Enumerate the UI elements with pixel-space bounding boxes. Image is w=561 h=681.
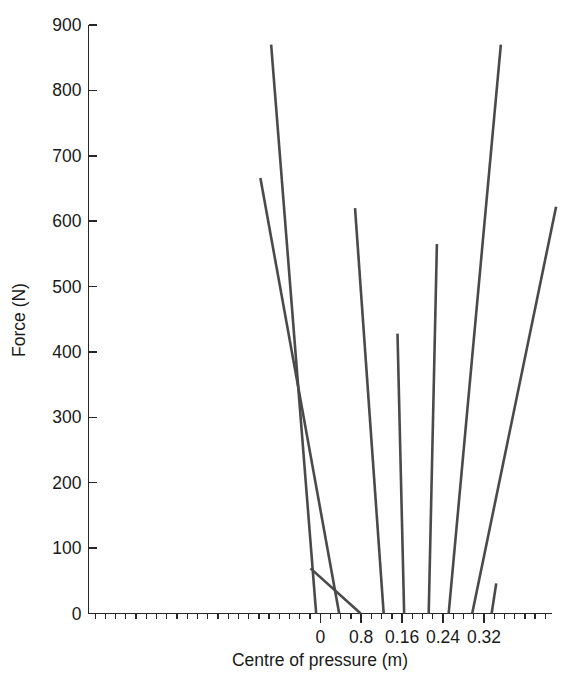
data-line-trace-4 [355, 208, 384, 613]
y-tick-label: 100 [52, 538, 81, 558]
data-line-trace-8 [472, 207, 556, 614]
data-line-trace-5 [398, 334, 405, 614]
y-tick-label: 800 [52, 80, 81, 100]
y-tick-label: 900 [52, 15, 81, 35]
y-tick-label: 200 [52, 473, 81, 493]
data-line-trace-6 [429, 244, 437, 613]
x-axis-ticks [95, 614, 545, 623]
x-tick-label: 0.24 [426, 627, 460, 647]
data-line-trace-1 [271, 45, 316, 614]
force-centre-of-pressure-chart: 0100200300400500600700800900 00.80.160.2… [0, 0, 561, 681]
chart-figure: 0100200300400500600700800900 00.80.160.2… [0, 0, 561, 681]
x-tick-label: 0.32 [467, 627, 501, 647]
data-line-trace-3 [311, 568, 361, 613]
y-tick-label: 700 [52, 146, 81, 166]
data-line-trace-9 [492, 583, 497, 613]
x-tick-label: 0.16 [385, 627, 419, 647]
data-series-group [260, 45, 556, 614]
y-tick-label: 300 [52, 407, 81, 427]
y-axis-ticks [89, 25, 97, 614]
x-tick-label: 0 [315, 627, 325, 647]
y-axis-tick-labels: 0100200300400500600700800900 [52, 15, 81, 624]
y-tick-label: 0 [72, 604, 82, 624]
y-tick-label: 400 [52, 342, 81, 362]
y-tick-label: 500 [52, 277, 81, 297]
y-tick-label: 600 [52, 211, 81, 231]
x-axis-title: Centre of pressure (m) [232, 650, 408, 670]
y-axis-title: Force (N) [9, 283, 29, 357]
data-line-trace-2 [260, 178, 339, 613]
x-axis-tick-labels: 00.80.160.240.32 [315, 627, 501, 647]
x-tick-label: 0.8 [349, 627, 373, 647]
data-line-trace-7 [449, 45, 501, 614]
